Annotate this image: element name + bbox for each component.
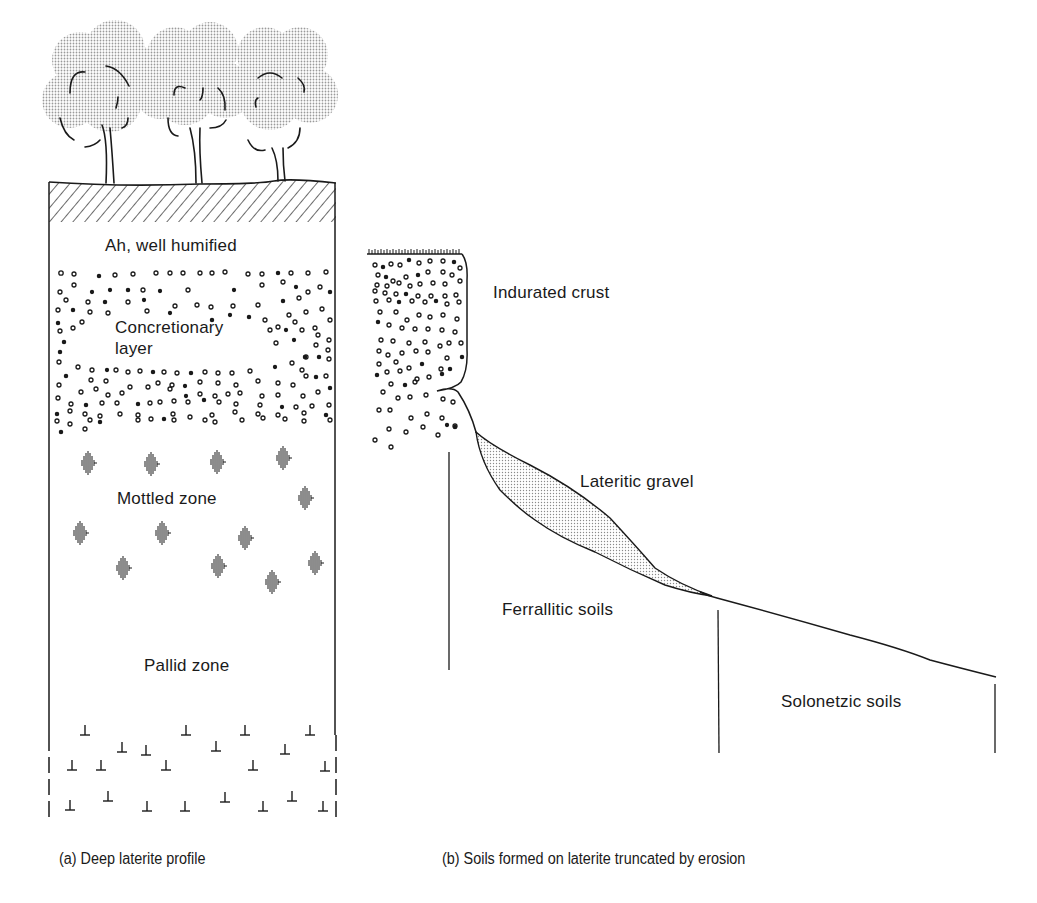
laterite-diagram — [0, 0, 1037, 903]
concretion-dots — [55, 270, 332, 434]
mottle-marks — [74, 446, 324, 594]
layer-label-concretionary-line1: Concretionary — [115, 318, 223, 338]
panel-b-erosion — [367, 249, 996, 753]
label-indurated-crust: Indurated crust — [493, 283, 609, 303]
layer-label-concretionary-line2: layer — [115, 339, 153, 359]
ah-hatch-band — [49, 180, 336, 222]
layer-label-ah: Ah, well humified — [105, 236, 237, 256]
crust-nodules — [373, 258, 464, 449]
layer-label-mottled: Mottled zone — [117, 489, 217, 509]
caption-b: (b) Soils formed on laterite truncated b… — [442, 850, 745, 868]
label-solonetzic-soils: Solonetzic soils — [781, 692, 901, 712]
grass-ticks — [369, 249, 459, 254]
label-ferrallitic-soils: Ferrallitic soils — [502, 600, 613, 620]
caption-a: (a) Deep laterite profile — [59, 850, 205, 868]
panel-a-profile — [42, 20, 338, 822]
layer-label-pallid: Pallid zone — [144, 656, 229, 676]
label-lateritic-gravel: Lateritic gravel — [580, 472, 694, 492]
tree-canopy-icon — [42, 20, 338, 132]
lateritic-gravel-lens — [476, 432, 712, 596]
pallid-symbols — [65, 725, 330, 811]
